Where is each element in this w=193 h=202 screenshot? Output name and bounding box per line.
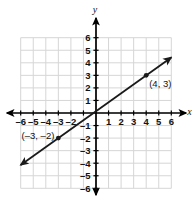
y-tick-label: 3 [85, 70, 90, 81]
y-tick-label: –6 [80, 183, 91, 194]
x-tick-label: –3 [53, 116, 64, 127]
x-tick-label: –6 [15, 116, 26, 127]
y-axis-name: y [92, 4, 98, 15]
y-tick-label: 4 [85, 57, 91, 68]
data-point [144, 73, 149, 78]
x-tick-label: 3 [131, 116, 136, 127]
data-point [56, 136, 61, 141]
point-label-a: (4, 3) [149, 78, 171, 89]
x-tick-label: –2 [66, 116, 77, 127]
x-tick-label: 1 [106, 116, 112, 127]
x-tick-label: 4 [144, 116, 150, 127]
x-tick-label: 2 [118, 116, 123, 127]
point-label-b: (–3, –2) [22, 130, 55, 141]
x-tick-label: –5 [28, 116, 39, 127]
y-tick-label: 1 [85, 95, 91, 106]
graph-svg: –6–5–4–3–2123456654321–1–2–3–4–5–6 (4, 3… [0, 0, 193, 202]
x-tick-label: 5 [156, 116, 162, 127]
y-tick-label: –3 [80, 145, 91, 156]
y-tick-label: 6 [85, 32, 90, 43]
y-tick-label: –4 [80, 158, 91, 169]
y-tick-label: 2 [85, 82, 90, 93]
x-tick-label: 6 [169, 116, 174, 127]
coordinate-plane-figure: –6–5–4–3–2123456654321–1–2–3–4–5–6 (4, 3… [0, 0, 193, 202]
y-tick-label: –5 [80, 170, 91, 181]
x-tick-label: –4 [41, 116, 52, 127]
y-tick-label: 5 [85, 45, 91, 56]
x-axis-name: x [186, 106, 192, 117]
y-tick-label: –2 [80, 133, 91, 144]
